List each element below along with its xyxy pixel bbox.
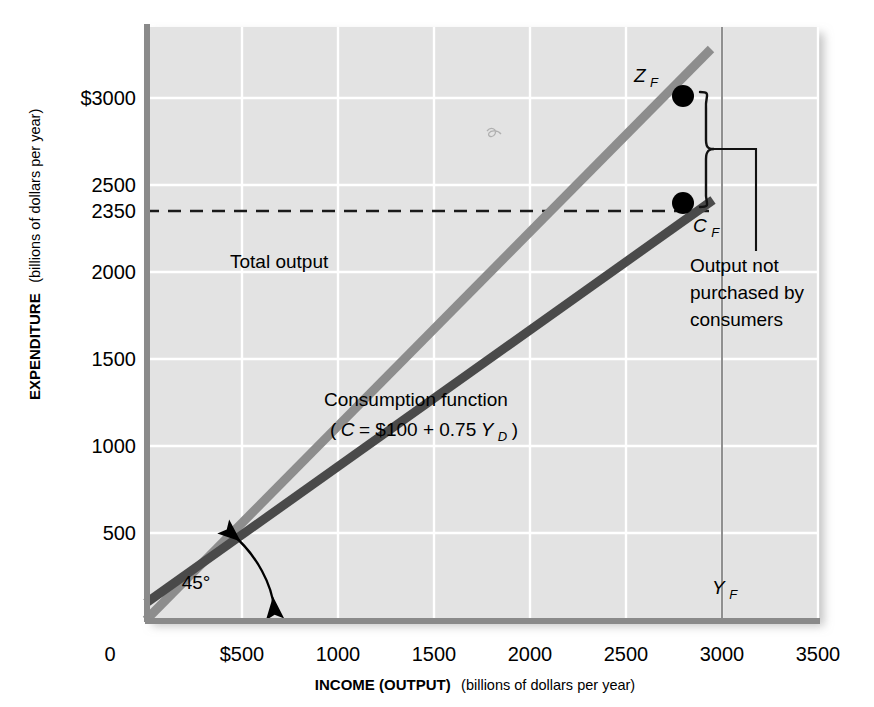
y-tick-label-1000: 1000 xyxy=(92,435,137,457)
x-tick-label-2500: 2500 xyxy=(604,643,649,665)
y-tick-label-500: 500 xyxy=(103,522,136,544)
y-axis-title: EXPENDITURE (billions of dollars per yea… xyxy=(26,109,43,400)
eq-symbol-y: Y xyxy=(481,419,495,440)
svg-text:EXPENDITURE (billions: EXPENDITURE (billions of dollars per yea… xyxy=(26,109,43,400)
x-tick-label-1000: 1000 xyxy=(316,643,361,665)
x-tick-label-0: 0 xyxy=(104,643,115,665)
point-label-zf-main: Z xyxy=(633,65,647,86)
y-tick-label-2000: 2000 xyxy=(92,261,137,283)
series-label-consumption-function: Consumption function xyxy=(324,389,508,410)
reference-label-yf-subscript: F xyxy=(729,587,738,602)
eq-symbol-c: C xyxy=(341,419,355,440)
x-tick-label-1500: 1500 xyxy=(412,643,457,665)
eq-middle: = $100 + 0.75 xyxy=(359,419,476,440)
x-axis-title: INCOME (OUTPUT) (billions of dollars per… xyxy=(315,676,635,693)
expenditure-income-chart: $3000 2500 2350 2000 1500 1000 500 0 $50… xyxy=(0,0,874,707)
x-axis-title-sub: (billions of dollars per year) xyxy=(461,677,635,693)
y-tick-label-3000: $3000 xyxy=(80,87,136,109)
eq-paren-open: ( xyxy=(330,419,337,440)
point-label-cf-main: C xyxy=(693,215,707,236)
y-tick-label-2500: 2500 xyxy=(92,174,137,196)
series-label-total-output: Total output xyxy=(230,251,329,272)
point-label-zf-subscript: F xyxy=(650,75,659,90)
x-axis-title-main: INCOME (OUTPUT) xyxy=(315,676,451,693)
angle-label-45-degree: 45° xyxy=(182,572,211,593)
data-point-cf[interactable] xyxy=(672,192,694,214)
y-axis-title-main: EXPENDITURE xyxy=(26,293,43,400)
x-tick-label-500: $500 xyxy=(220,643,265,665)
reference-label-yf-main: Y xyxy=(712,577,726,598)
y-tick-label-2350: 2350 xyxy=(92,200,137,222)
annotation-line-1: Output not xyxy=(690,255,779,276)
eq-paren-close: ) xyxy=(512,419,518,440)
annotation-line-2: purchased by xyxy=(690,282,805,303)
y-axis-title-sub: (billions of dollars per year) xyxy=(27,109,43,283)
x-tick-label-3500: 3500 xyxy=(796,643,841,665)
annotation-line-3: consumers xyxy=(690,309,783,330)
eq-symbol-y-subscript: D xyxy=(498,429,507,444)
x-tick-label-3000: 3000 xyxy=(700,643,745,665)
y-tick-label-1500: 1500 xyxy=(92,348,137,370)
x-tick-label-2000: 2000 xyxy=(508,643,553,665)
data-point-zf[interactable] xyxy=(672,85,694,107)
chart-svg: $3000 2500 2350 2000 1500 1000 500 0 $50… xyxy=(0,0,874,707)
point-label-cf-subscript: F xyxy=(711,225,720,240)
